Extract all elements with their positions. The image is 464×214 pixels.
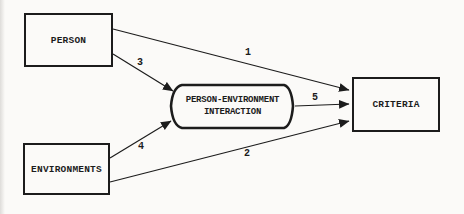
criteria-node-label: CRITERIA bbox=[372, 99, 419, 110]
criteria-node: CRITERIA bbox=[352, 77, 440, 132]
interaction-node-label: PERSON-ENVIRONMENT INTERACTION bbox=[172, 88, 293, 125]
person-node: PERSON bbox=[24, 13, 113, 67]
arrow-2-line bbox=[110, 121, 349, 182]
environments-node: ENVIRONMENTS bbox=[23, 143, 110, 195]
arrow-2-label: 2 bbox=[244, 148, 250, 159]
interaction-node-label-line1: PERSON-ENVIRONMENT bbox=[186, 95, 280, 107]
arrow-4-label: 4 bbox=[138, 141, 144, 152]
diagram-canvas: PERSON ENVIRONMENTS CRITERIA PERSON-ENVI… bbox=[0, 0, 464, 214]
environments-node-label: ENVIRONMENTS bbox=[31, 164, 102, 175]
arrow-1-line bbox=[113, 29, 349, 90]
interaction-node-label-line2: INTERACTION bbox=[204, 107, 261, 119]
arrow-4-line bbox=[110, 121, 171, 158]
arrow-1-label: 1 bbox=[245, 47, 251, 58]
arrow-5-line bbox=[295, 104, 349, 106]
person-node-label: PERSON bbox=[51, 35, 86, 46]
arrow-5-label: 5 bbox=[312, 92, 318, 103]
arrow-3-label: 3 bbox=[137, 57, 143, 68]
